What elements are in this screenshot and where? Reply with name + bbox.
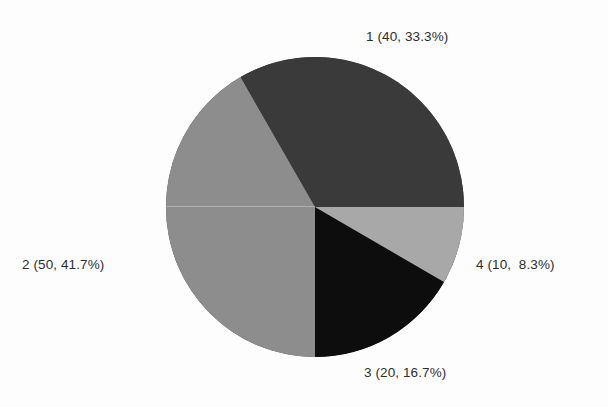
pie-label-slice-2: 2 (50, 41.7%) <box>22 258 104 272</box>
pie-label-slice-4: 4 (10, 8.3%) <box>476 258 555 272</box>
pie-chart: 1 (40, 33.3%) 2 (50, 41.7%) 3 (20, 16.7%… <box>0 0 608 407</box>
pie-label-slice-3: 3 (20, 16.7%) <box>364 366 446 380</box>
pie-slice-group <box>166 57 464 357</box>
pie-label-slice-1: 1 (40, 33.3%) <box>366 30 448 44</box>
pie-figure <box>0 0 608 407</box>
